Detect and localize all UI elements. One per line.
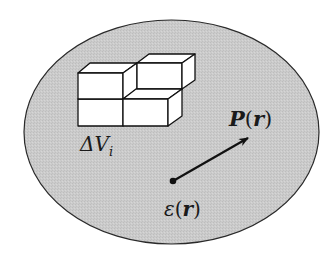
- cube-lower-right-front: [123, 99, 168, 126]
- cube-upper-left-front: [78, 73, 123, 99]
- volume-cubes: [78, 54, 195, 126]
- origin-point: [170, 178, 177, 185]
- cube-upper-right-front: [137, 63, 182, 89]
- dielectric-diagram: ΔVi P(r) ε(r): [0, 0, 336, 261]
- polarization-label: P(r): [228, 106, 272, 131]
- volume-element-label: ΔVi: [79, 132, 113, 159]
- cube-lower-left: [78, 99, 123, 126]
- permittivity-label: ε(r): [164, 197, 201, 221]
